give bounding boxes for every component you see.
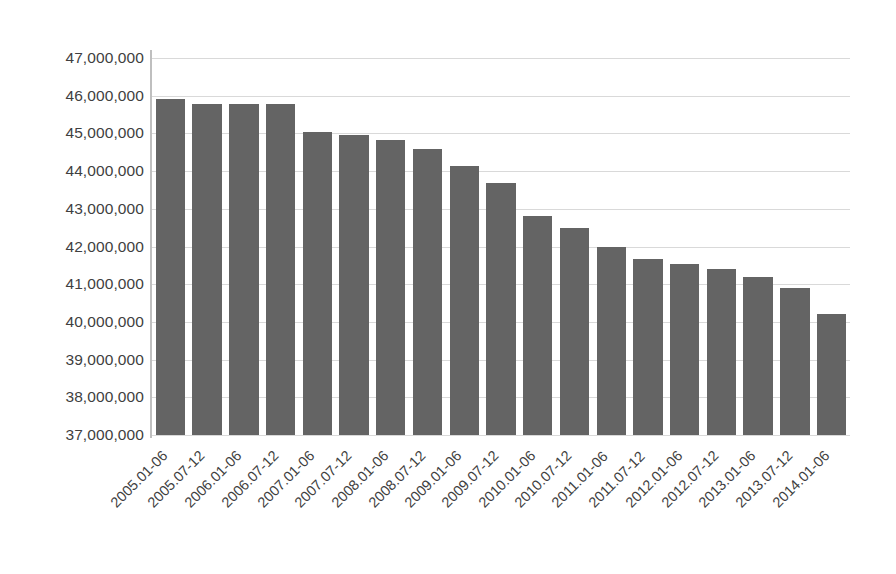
bar[interactable] xyxy=(413,149,442,435)
bar[interactable] xyxy=(450,166,479,435)
bar[interactable] xyxy=(523,216,552,435)
y-axis-tick-label: 41,000,000 xyxy=(0,276,144,292)
y-axis-tick-label: 47,000,000 xyxy=(0,50,144,66)
bar[interactable] xyxy=(156,99,185,435)
gridline xyxy=(152,435,850,436)
bar[interactable] xyxy=(707,269,736,435)
bar[interactable] xyxy=(303,132,332,435)
bar[interactable] xyxy=(597,247,626,435)
bar-chart: 47,000,00046,000,00045,000,00044,000,000… xyxy=(0,0,896,574)
bar[interactable] xyxy=(339,135,368,435)
bar[interactable] xyxy=(266,104,295,435)
bar[interactable] xyxy=(633,259,662,435)
plot-area xyxy=(152,58,850,435)
x-axis-tick-labels: 2005.01-062005.07-122006.01-062006.07-12… xyxy=(152,438,896,574)
bar[interactable] xyxy=(817,314,846,435)
bar[interactable] xyxy=(376,140,405,435)
bar[interactable] xyxy=(229,104,258,435)
bar[interactable] xyxy=(486,183,515,435)
y-axis-tick-label: 37,000,000 xyxy=(0,427,144,443)
y-axis-tick-label: 45,000,000 xyxy=(0,126,144,142)
y-axis-tick-label: 44,000,000 xyxy=(0,163,144,179)
bar[interactable] xyxy=(743,277,772,435)
y-axis-tick-label: 40,000,000 xyxy=(0,314,144,330)
bar[interactable] xyxy=(560,228,589,435)
y-axis-tick-label: 46,000,000 xyxy=(0,88,144,104)
y-axis-tick-label: 39,000,000 xyxy=(0,352,144,368)
y-axis-tick-label: 42,000,000 xyxy=(0,239,144,255)
y-axis-tick-label: 43,000,000 xyxy=(0,201,144,217)
bar[interactable] xyxy=(780,288,809,435)
bar[interactable] xyxy=(670,264,699,435)
y-axis-tick-label: 38,000,000 xyxy=(0,390,144,406)
bar[interactable] xyxy=(192,104,221,435)
bar-series xyxy=(152,58,850,435)
